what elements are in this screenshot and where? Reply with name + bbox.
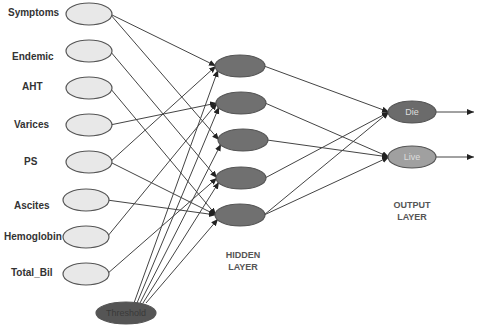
hidden-node bbox=[218, 129, 268, 151]
edge-input-hidden bbox=[110, 14, 216, 66]
output-node-label: Die bbox=[405, 107, 419, 117]
input-label-ascites: Ascites bbox=[14, 200, 50, 211]
output-layer-title: OUTPUT LAYER bbox=[382, 199, 442, 223]
edge-threshold-hidden bbox=[143, 182, 219, 303]
input-label-endemic: Endemic bbox=[12, 51, 54, 62]
edge-input-hidden bbox=[107, 103, 217, 237]
nodes: DieLiveThreshold bbox=[63, 3, 436, 324]
input-label-aht: AHT bbox=[22, 81, 43, 92]
hidden-layer-title: HIDDEN LAYER bbox=[213, 249, 273, 273]
edge-hidden-output bbox=[264, 66, 389, 112]
output-node-label: Live bbox=[404, 152, 421, 162]
edge-threshold-hidden bbox=[137, 107, 219, 303]
hidden-node bbox=[215, 204, 265, 226]
input-node bbox=[63, 189, 109, 211]
input-label-total-bil: Total_Bil bbox=[11, 267, 52, 278]
hidden-node bbox=[215, 55, 265, 77]
edge-threshold-hidden bbox=[146, 219, 218, 303]
hidden-layer-title-line1: HIDDEN bbox=[213, 249, 273, 261]
input-node bbox=[66, 40, 112, 62]
input-node bbox=[63, 263, 109, 285]
input-node bbox=[66, 3, 112, 25]
output-layer-title-line1: OUTPUT bbox=[382, 199, 442, 211]
input-label-hemoglobin: Hemoglobin bbox=[4, 231, 62, 242]
input-node bbox=[66, 151, 112, 173]
output-layer-title-line2: LAYER bbox=[382, 211, 442, 223]
hidden-layer-title-line2: LAYER bbox=[213, 261, 273, 273]
edge-hidden-output bbox=[264, 112, 389, 215]
edge-input-hidden bbox=[110, 162, 216, 215]
edge-input-hidden bbox=[110, 66, 216, 162]
network-graph: DieLiveThreshold bbox=[0, 0, 483, 334]
input-node bbox=[66, 77, 112, 99]
hidden-node bbox=[216, 167, 266, 189]
input-label-symptoms: Symptoms bbox=[8, 7, 59, 18]
edge-hidden-output bbox=[264, 157, 389, 215]
input-node bbox=[66, 114, 112, 136]
input-label-ps: PS bbox=[24, 156, 37, 167]
input-label-varices: Varices bbox=[14, 119, 49, 130]
threshold-label: Threshold bbox=[106, 308, 146, 318]
edge-threshold-hidden bbox=[140, 144, 221, 303]
edge-hidden-output bbox=[265, 103, 389, 157]
hidden-node bbox=[216, 92, 266, 114]
edge-hidden-output bbox=[265, 112, 389, 178]
input-node bbox=[63, 226, 109, 248]
neural-network-diagram: DieLiveThreshold Symptoms Endemic AHT Va… bbox=[0, 0, 483, 334]
